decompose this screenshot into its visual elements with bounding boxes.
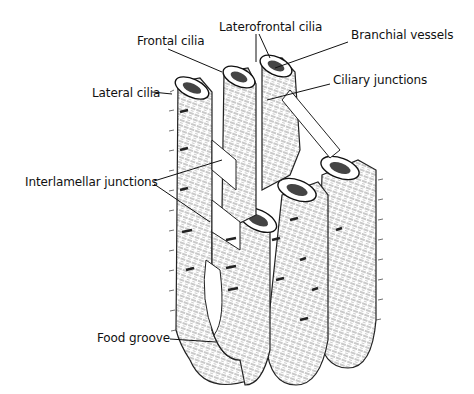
leader-laterofrontal-cilia-2	[259, 34, 270, 58]
filament-top-middle	[220, 62, 258, 225]
leader-branchial-vessels	[275, 42, 348, 68]
label-interlamellar-junctions: Interlamellar junctions	[25, 175, 158, 189]
illustration	[0, 0, 474, 394]
label-food-groove: Food groove	[97, 331, 170, 345]
leader-frontal-cilia	[168, 49, 222, 72]
filament-middle-right	[266, 174, 328, 385]
filament-top-right	[257, 51, 300, 190]
label-branchial-vessels: Branchial vessels	[351, 28, 453, 42]
gill-filament-diagram: Frontal cilia Laterofrontal cilia Branch…	[0, 0, 474, 394]
label-lateral-cilia: Lateral cilia	[92, 86, 160, 100]
label-laterofrontal-cilia: Laterofrontal cilia	[219, 20, 322, 34]
label-frontal-cilia: Frontal cilia	[137, 34, 205, 48]
label-ciliary-junctions: Ciliary junctions	[333, 73, 427, 87]
